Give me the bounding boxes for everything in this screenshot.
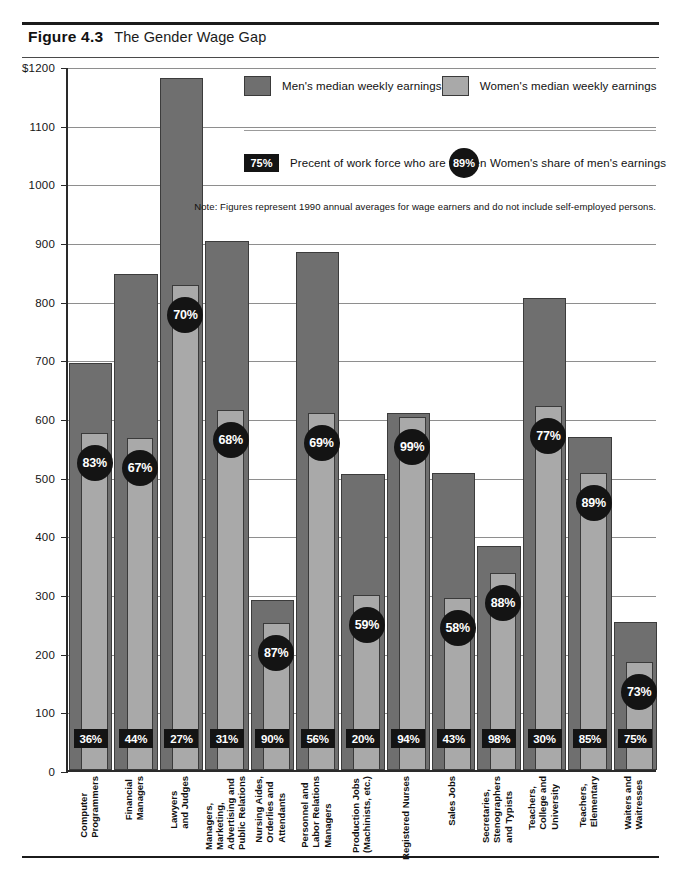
y-axis-tick (61, 361, 68, 362)
legend-item-men: Men's median weekly earnings (244, 76, 442, 96)
legend-label-women: Women's median weekly earnings (480, 80, 657, 92)
figure-header: Figure 4.3 The Gender Wage Gap (28, 28, 266, 46)
y-axis-tick (61, 655, 68, 656)
workforce-badge: 98% (482, 729, 516, 748)
y-axis-tick (61, 420, 68, 421)
x-axis-label: Secretaries, Stenographers and Typists (480, 776, 514, 843)
x-axis-label-text: Secretaries, Stenographers and Typists (480, 776, 514, 843)
figure-title: The Gender Wage Gap (114, 29, 266, 45)
x-axis-labels: Computer ProgrammersFinancial ManagersLa… (66, 776, 656, 862)
workforce-badge-icon: 75% (244, 154, 279, 172)
bar-group (205, 68, 248, 770)
legend-series: Men's median weekly earnings Women's med… (244, 76, 654, 108)
share-badge: 88% (485, 585, 521, 621)
workforce-badge: 27% (164, 729, 198, 748)
share-badge: 99% (394, 429, 430, 465)
x-axis-label-text: Teachers, Elementary (577, 776, 599, 827)
share-badge: 69% (304, 425, 340, 461)
share-badge: 68% (213, 422, 249, 458)
y-axis-tick (61, 713, 68, 714)
y-axis-tick (61, 68, 68, 69)
share-badge: 67% (122, 450, 158, 486)
x-axis-label-text: Registered Nurses (401, 776, 412, 860)
y-axis-tick-label: 1000 (29, 179, 55, 191)
x-axis-label: Computer Programmers (77, 776, 99, 838)
legend-item-share: 89% Women's share of men's earnings (449, 148, 666, 178)
x-axis-label: Production Jobs (Machinists, etc.) (350, 776, 372, 853)
legend-label-share: Women's share of men's earnings (490, 157, 666, 169)
x-axis-label: Waiters and Waitresses (622, 776, 644, 830)
x-axis-label-text: Nursing Aides, Orderlies and Attendants (253, 776, 287, 843)
workforce-badge: 85% (573, 729, 607, 748)
x-axis-label-text: Production Jobs (Machinists, etc.) (350, 776, 372, 853)
y-axis-tick (61, 185, 68, 186)
bar-women (399, 417, 426, 770)
bar-women (127, 438, 154, 770)
y-axis-tick-label: 1100 (29, 121, 55, 133)
y-axis-tick (61, 127, 68, 128)
y-axis-tick (61, 479, 68, 480)
workforce-badge: 30% (528, 729, 562, 748)
y-axis-tick-label: 400 (35, 531, 55, 543)
workforce-badge: 90% (255, 729, 289, 748)
share-badge: 58% (440, 610, 476, 646)
workforce-badge: 43% (437, 729, 471, 748)
y-axis-tick-label: 500 (35, 473, 55, 485)
figure-note: Note: Figures represent 1990 annual aver… (194, 201, 656, 212)
women-swatch-icon (442, 76, 469, 96)
bar-women (172, 285, 199, 770)
x-axis-label-text: Waiters and Waitresses (622, 776, 644, 830)
workforce-badge: 36% (74, 729, 108, 748)
y-axis-tick-label: 900 (35, 238, 55, 250)
header-rule (22, 57, 659, 58)
share-badge: 87% (258, 635, 294, 671)
figure-number: Figure 4.3 (28, 28, 103, 46)
y-axis-tick-label: $1200 (22, 62, 55, 74)
bar-women (308, 413, 335, 770)
x-axis-label: Teachers, Elementary (577, 776, 599, 827)
men-swatch-icon (244, 76, 271, 96)
y-axis-tick-label: 200 (35, 649, 55, 661)
x-axis-label-text: Financial Managers (123, 776, 145, 820)
x-axis-label-text: Managers, Marketing, Advertising and Pub… (202, 776, 247, 850)
y-axis-tick-label: 300 (35, 590, 55, 602)
y-axis-tick-label: 0 (48, 766, 55, 778)
bottom-rule (22, 856, 659, 858)
legend-item-workforce: 75% Precent of work force who are women (244, 154, 449, 172)
share-badge-icon: 89% (449, 148, 479, 178)
y-axis-tick-label: 800 (35, 297, 55, 309)
share-badge: 70% (167, 297, 203, 333)
x-axis-label-text: Personnel and Labor Relations Managers (299, 776, 333, 848)
y-axis-tick-label: 700 (35, 355, 55, 367)
share-badge: 83% (77, 445, 113, 481)
x-axis-label: Financial Managers (123, 776, 145, 820)
x-axis-label: Personnel and Labor Relations Managers (299, 776, 333, 848)
x-axis-label: Nursing Aides, Orderlies and Attendants (253, 776, 287, 843)
bar-group (69, 68, 112, 770)
x-axis-label: Teachers, College and University (526, 776, 560, 830)
bar-group (160, 68, 203, 770)
workforce-badge: 94% (391, 729, 425, 748)
legend-badges: 75% Precent of work force who are women … (244, 148, 656, 178)
y-axis-tick-label: 100 (35, 707, 55, 719)
share-badge: 89% (576, 485, 612, 521)
y-axis-labels: $120011001000900800700600500400300200100… (0, 68, 66, 772)
x-axis-label: Sales Jobs (446, 776, 457, 826)
legend-divider (244, 130, 656, 131)
share-badge: 73% (621, 674, 657, 710)
y-axis-tick (61, 772, 68, 773)
figure-page: Figure 4.3 The Gender Wage Gap $12001100… (0, 0, 680, 884)
share-badge: 59% (349, 607, 385, 643)
workforce-badge: 20% (346, 729, 380, 748)
legend-label-men: Men's median weekly earnings (282, 80, 442, 92)
x-axis-label: Lawyers and Judges (168, 776, 190, 829)
x-axis-label: Managers, Marketing, Advertising and Pub… (202, 776, 247, 850)
y-axis-tick (61, 244, 68, 245)
y-axis-tick (61, 537, 68, 538)
bar-women (217, 410, 244, 770)
y-axis-tick-label: 600 (35, 414, 55, 426)
bar-women (535, 406, 562, 770)
top-rule (22, 22, 659, 25)
legend-item-women: Women's median weekly earnings (442, 76, 657, 96)
x-axis-label-text: Lawyers and Judges (168, 776, 190, 829)
